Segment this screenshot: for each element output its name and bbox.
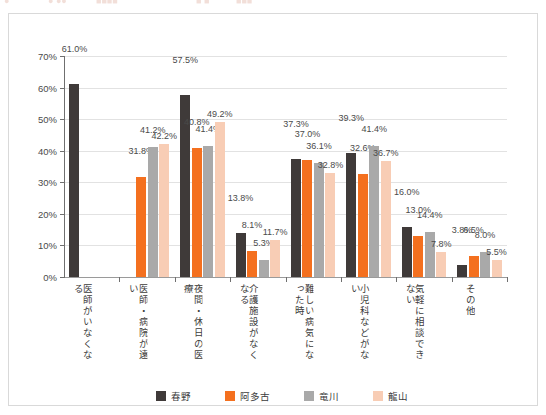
bar[interactable]	[402, 227, 412, 278]
legend-swatch-icon	[156, 391, 166, 401]
bar[interactable]	[302, 160, 312, 277]
bar[interactable]	[358, 174, 368, 277]
x-axis-tick	[396, 277, 397, 282]
bar[interactable]	[136, 177, 146, 277]
header-fragment-1: ●	[4, 0, 9, 6]
y-axis-tick	[60, 214, 65, 215]
bar-group: 13.8%8.1%5.3%11.7%	[236, 56, 281, 277]
cut-off-header-strip: ● ● ●● ■■■■ ■ ■ ■■■	[0, 0, 546, 11]
bar[interactable]	[192, 148, 202, 277]
bar[interactable]	[492, 260, 502, 277]
bar[interactable]	[469, 256, 479, 277]
bar-group: 37.3%37.0%36.1%32.8%	[291, 56, 336, 277]
bar-value-label: 14.4%	[417, 210, 443, 220]
bar-value-label: 16.0%	[394, 187, 420, 197]
x-axis-category-label: 介護施設がなくなる	[239, 284, 258, 366]
bar[interactable]	[436, 252, 446, 277]
bar-value-label: 37.3%	[283, 119, 309, 129]
y-axis-label: 20%	[38, 208, 57, 219]
y-axis-label: 40%	[38, 145, 57, 156]
x-axis-category-label: その他	[466, 284, 476, 366]
legend-swatch-icon	[304, 391, 314, 401]
y-axis-label: 70%	[38, 51, 57, 62]
bar[interactable]	[69, 84, 79, 277]
header-fragment-5: ■■■	[236, 0, 252, 6]
x-axis-category-label: 医師がいなくなる	[73, 284, 92, 366]
chart-legend: 春野阿多古竜川龍山	[9, 389, 546, 403]
bar[interactable]	[215, 122, 225, 277]
bar[interactable]	[203, 146, 213, 277]
chart-page: ● ● ●● ■■■■ ■ ■ ■■■ 0%10%20%30%40%50%60%…	[0, 0, 546, 415]
x-axis-category-label: 夜間・休日の医療	[184, 284, 203, 366]
bar[interactable]	[259, 260, 269, 277]
bar-value-label: 11.7%	[263, 227, 288, 237]
bar-value-label: 57.5%	[172, 55, 198, 65]
legend-item[interactable]: 竜川	[304, 389, 339, 403]
y-axis-label: 30%	[38, 177, 57, 188]
bar-value-label: 39.3%	[339, 113, 365, 123]
bar-group: 39.3%32.6%41.4%36.7%	[346, 56, 391, 277]
bar-value-label: 49.2%	[207, 109, 233, 119]
x-axis-tick	[452, 277, 453, 282]
y-axis-tick	[60, 245, 65, 246]
legend-label: 春野	[171, 389, 191, 403]
x-axis-tick	[175, 277, 176, 282]
bar[interactable]	[148, 147, 158, 277]
x-axis-tick	[230, 277, 231, 282]
y-axis-tick	[60, 88, 65, 89]
bar[interactable]	[413, 236, 423, 277]
bar-value-label: 32.8%	[318, 160, 344, 170]
y-axis-tick	[60, 119, 65, 120]
bar-group: 57.5%40.8%41.4%49.2%	[180, 56, 225, 277]
header-fragment-3: ■■■■	[96, 0, 118, 6]
bar[interactable]	[346, 153, 356, 277]
y-axis-tick	[60, 182, 65, 183]
header-fragment-4: ■ ■	[196, 0, 209, 6]
bar[interactable]	[369, 146, 379, 277]
bar[interactable]	[247, 251, 257, 277]
bar-value-label: 41.4%	[362, 124, 388, 134]
legend-item[interactable]: 龍山	[373, 389, 408, 403]
legend-item[interactable]: 阿多古	[225, 389, 270, 403]
bar-group: 31.8%41.2%42.2%	[125, 56, 170, 277]
bar[interactable]	[425, 232, 435, 277]
bar-value-label: 36.1%	[306, 141, 332, 151]
x-axis-tick	[286, 277, 287, 282]
bar[interactable]	[314, 163, 324, 277]
bar-value-label: 8.0%	[475, 230, 496, 240]
x-axis-tick	[507, 277, 508, 282]
legend-item[interactable]: 春野	[156, 389, 191, 403]
x-axis-tick	[119, 277, 120, 282]
bar[interactable]	[381, 161, 391, 277]
legend-label: 竜川	[319, 389, 339, 403]
legend-label: 阿多古	[240, 389, 270, 403]
bar-value-label: 36.7%	[373, 148, 399, 158]
bar[interactable]	[325, 173, 335, 277]
y-axis-tick	[60, 277, 65, 278]
bar[interactable]	[236, 233, 246, 277]
x-axis-category-label: 難しい病気になった時	[295, 284, 314, 366]
y-axis-label: 10%	[38, 240, 57, 251]
y-axis-label: 0%	[43, 272, 57, 283]
chart-frame: 0%10%20%30%40%50%60%70%61.0%31.8%41.2%42…	[8, 13, 538, 406]
y-axis-tick	[60, 56, 65, 57]
bar-value-label: 13.8%	[228, 193, 254, 203]
bar-value-label: 8.1%	[242, 220, 263, 230]
bar[interactable]	[270, 240, 280, 277]
bar-value-label: 37.0%	[295, 129, 321, 139]
x-axis-category-label: 気軽に相談できない	[405, 284, 424, 366]
bar[interactable]	[291, 159, 301, 277]
bar-group: 3.8%6.5%8.0%5.5%	[457, 56, 502, 277]
x-axis-category-label: 医師・病院が遠い	[129, 284, 148, 366]
bar[interactable]	[457, 265, 467, 277]
bar-value-label: 42.2%	[152, 131, 178, 141]
bar-group: 16.0%13.0%14.4%7.8%	[402, 56, 447, 277]
x-axis-category-label: 小児科などがない	[350, 284, 369, 366]
x-axis-tick	[341, 277, 342, 282]
bar-value-label: 5.5%	[486, 247, 507, 257]
bar[interactable]	[159, 144, 169, 277]
legend-label: 龍山	[388, 389, 408, 403]
y-axis-label: 50%	[38, 114, 57, 125]
y-axis-line	[64, 56, 65, 277]
legend-swatch-icon	[225, 391, 235, 401]
